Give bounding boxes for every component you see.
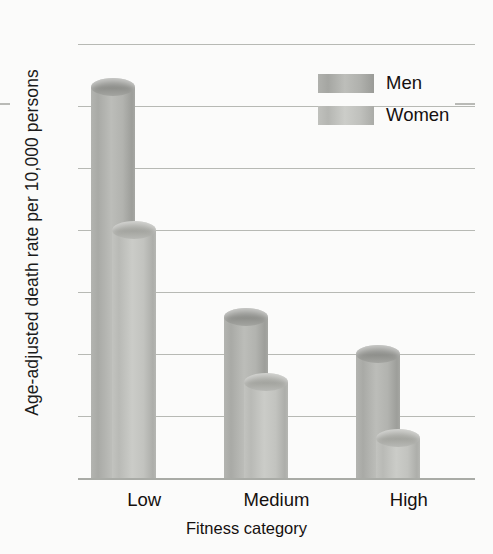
bar-cap-highlight [244,373,288,391]
legend-label-men: Men [386,72,422,94]
x-axis-title: Fitness category [0,519,493,538]
bar-medium-women [244,382,288,478]
gridline-50 [78,168,475,169]
x-axis-tick-label-high: High [343,489,475,511]
bar-body [244,382,288,478]
gridline-70 [78,44,475,45]
y-axis-title: Age-adjusted death rate per 10,000 perso… [22,28,43,458]
bar-high-women [376,438,420,478]
chart-legend: Men Women [318,70,478,134]
bar-chart: Age-adjusted death rate per 10,000 perso… [0,0,493,554]
gridline-0 [78,478,475,480]
bar-cap-highlight [112,221,156,239]
legend-label-women: Women [386,104,449,126]
x-axis-tick-label-low: Low [78,489,210,511]
scan-artifact-left [0,103,10,105]
bar-low-women [112,230,156,478]
legend-item-men: Men [318,70,478,96]
x-axis-tick-label-medium: Medium [210,489,342,511]
bar-cap-highlight [376,429,420,447]
bar-cap-highlight [356,345,400,363]
bar-cap-highlight [224,308,268,326]
legend-swatch-women [318,106,374,125]
scan-artifact-right [455,103,475,105]
legend-item-women: Women [318,102,478,128]
bar-body [112,230,156,478]
legend-swatch-men [318,74,374,93]
